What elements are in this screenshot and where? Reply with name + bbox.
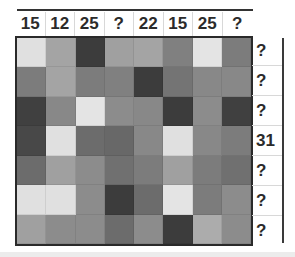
grid-cell[interactable] bbox=[17, 38, 46, 67]
column-clue: ? bbox=[105, 12, 135, 36]
grid-cell[interactable] bbox=[134, 156, 163, 185]
row-clues: ? ? ? 31 ? ? ? bbox=[252, 36, 282, 246]
grid-cell[interactable] bbox=[222, 67, 251, 96]
column-clue: 15 bbox=[16, 12, 46, 36]
grid-cell[interactable] bbox=[163, 156, 192, 185]
row-clue: ? bbox=[252, 66, 282, 96]
row-clue: ? bbox=[252, 216, 282, 246]
grid-cell[interactable] bbox=[134, 67, 163, 96]
grid-cell[interactable] bbox=[46, 126, 75, 155]
grid-cell[interactable] bbox=[134, 38, 163, 67]
puzzle-grid bbox=[15, 36, 253, 246]
grid-cell[interactable] bbox=[222, 97, 251, 126]
grid-cell[interactable] bbox=[105, 185, 134, 214]
grid-cell[interactable] bbox=[222, 38, 251, 67]
grid-cell[interactable] bbox=[76, 156, 105, 185]
grid-cell[interactable] bbox=[222, 215, 251, 244]
grid-cell[interactable] bbox=[193, 38, 222, 67]
grid-cell[interactable] bbox=[76, 67, 105, 96]
grid-cell[interactable] bbox=[105, 67, 134, 96]
row-clue: ? bbox=[252, 96, 282, 126]
grid-cell[interactable] bbox=[134, 215, 163, 244]
row-clue: ? bbox=[252, 186, 282, 216]
grid-cell[interactable] bbox=[105, 97, 134, 126]
grid-cell[interactable] bbox=[193, 156, 222, 185]
grid-cell[interactable] bbox=[17, 97, 46, 126]
row-clue: 31 bbox=[252, 126, 282, 156]
grid-cell[interactable] bbox=[134, 97, 163, 126]
grid-cell[interactable] bbox=[193, 126, 222, 155]
grid-cell[interactable] bbox=[105, 215, 134, 244]
grid-cell[interactable] bbox=[76, 38, 105, 67]
grid-cell[interactable] bbox=[163, 215, 192, 244]
grid-cell[interactable] bbox=[134, 185, 163, 214]
grid-cell[interactable] bbox=[222, 156, 251, 185]
puzzle-stage: 15 12 25 ? 22 15 25 ? ? ? ? 31 ? ? ? bbox=[0, 0, 295, 257]
grid-cell[interactable] bbox=[76, 215, 105, 244]
bottom-strip bbox=[0, 252, 295, 257]
top-divider bbox=[17, 9, 253, 11]
grid-cell[interactable] bbox=[193, 185, 222, 214]
column-clue: 15 bbox=[164, 12, 194, 36]
grid-cell[interactable] bbox=[76, 97, 105, 126]
column-clue: 12 bbox=[46, 12, 76, 36]
grid-cell[interactable] bbox=[222, 185, 251, 214]
grid-cell[interactable] bbox=[163, 126, 192, 155]
grid-cell[interactable] bbox=[46, 38, 75, 67]
grid-cell[interactable] bbox=[193, 215, 222, 244]
grid-cell[interactable] bbox=[76, 126, 105, 155]
grid-cell[interactable] bbox=[46, 156, 75, 185]
column-clue: 25 bbox=[75, 12, 105, 36]
grid-cell[interactable] bbox=[134, 126, 163, 155]
grid-cell[interactable] bbox=[163, 38, 192, 67]
grid-cell[interactable] bbox=[17, 215, 46, 244]
grid-cell[interactable] bbox=[105, 126, 134, 155]
grid-cell[interactable] bbox=[46, 185, 75, 214]
grid-cell[interactable] bbox=[193, 97, 222, 126]
grid-cell[interactable] bbox=[163, 67, 192, 96]
grid-cell[interactable] bbox=[46, 215, 75, 244]
grid-cell[interactable] bbox=[46, 97, 75, 126]
column-clue: ? bbox=[223, 12, 253, 36]
grid-cell[interactable] bbox=[17, 67, 46, 96]
grid-cell[interactable] bbox=[105, 38, 134, 67]
column-clue: 25 bbox=[193, 12, 223, 36]
row-clue: ? bbox=[252, 156, 282, 186]
grid-cell[interactable] bbox=[105, 156, 134, 185]
right-divider bbox=[282, 38, 284, 243]
column-clues: 15 12 25 ? 22 15 25 ? bbox=[16, 12, 252, 36]
column-clue: 22 bbox=[134, 12, 164, 36]
grid-cell[interactable] bbox=[193, 67, 222, 96]
grid-cell[interactable] bbox=[17, 126, 46, 155]
grid-cell[interactable] bbox=[222, 126, 251, 155]
row-clue: ? bbox=[252, 36, 282, 66]
grid-cell[interactable] bbox=[46, 67, 75, 96]
grid-cell[interactable] bbox=[76, 185, 105, 214]
grid-cell[interactable] bbox=[163, 97, 192, 126]
grid-cell[interactable] bbox=[17, 185, 46, 214]
grid-cell[interactable] bbox=[17, 156, 46, 185]
grid-cell[interactable] bbox=[163, 185, 192, 214]
